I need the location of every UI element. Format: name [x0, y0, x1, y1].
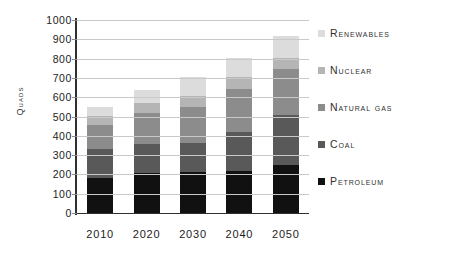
gridline	[77, 97, 309, 98]
x-axis-tick-labels: 20102020203020402050	[77, 228, 309, 248]
legend-swatch-icon	[318, 67, 325, 74]
y-axis-tick-label: 800	[28, 53, 72, 65]
x-axis-tick-label: 2010	[86, 228, 114, 240]
gridline	[77, 78, 309, 79]
y-axis-tick-label: 200	[28, 168, 72, 180]
legend-swatch-icon	[318, 178, 325, 185]
gridline	[77, 194, 309, 195]
gridline	[77, 155, 309, 156]
bar-segment-natural-gas[interactable]	[273, 69, 299, 114]
y-axis-tickmark	[72, 194, 77, 195]
bar-segment-nuclear[interactable]	[134, 103, 160, 113]
y-axis-tick-label: 300	[28, 149, 72, 161]
y-axis-tickmark	[72, 97, 77, 98]
y-axis-tickmark	[72, 136, 77, 137]
y-axis-tickmark	[72, 78, 77, 79]
y-axis-tick-label: 700	[28, 72, 72, 84]
bar-segment-natural-gas[interactable]	[87, 125, 113, 149]
y-axis-tick-label: 900	[28, 33, 72, 45]
legend-label: Coal	[330, 138, 355, 150]
y-axis-tick-label: 0	[28, 207, 72, 219]
y-axis-tick-label: 100	[28, 188, 72, 200]
gridline	[77, 39, 309, 40]
y-axis-tickmark	[72, 174, 77, 175]
bar-segment-coal[interactable]	[180, 143, 206, 173]
bar-segment-natural-gas[interactable]	[226, 89, 252, 132]
y-axis-tickmark	[72, 213, 77, 214]
gridline	[77, 174, 309, 175]
legend-item-petroleum[interactable]: Petroleum	[318, 174, 384, 188]
plot-area	[77, 20, 309, 213]
y-axis-tick-label: 1000	[28, 14, 72, 26]
bar-segment-petroleum[interactable]	[226, 171, 252, 213]
bar-segment-petroleum[interactable]	[273, 165, 299, 213]
y-axis-tick-labels: 10009008007006005004003002001000	[28, 0, 72, 263]
y-axis-tickmark	[72, 39, 77, 40]
stacked-bar-chart: Quads 10009008007006005004003002001000 2…	[0, 0, 452, 263]
legend-item-coal[interactable]: Coal	[318, 137, 355, 151]
x-axis-tick-label: 2040	[226, 228, 254, 240]
y-axis-tickmark	[72, 59, 77, 60]
legend-item-renewables[interactable]: Renewables	[318, 26, 390, 40]
legend-swatch-icon	[318, 104, 325, 111]
y-axis-tick-label: 500	[28, 111, 72, 123]
bar-segment-renewables[interactable]	[87, 107, 113, 116]
bar-segment-natural-gas[interactable]	[180, 107, 206, 143]
x-axis-tick-label: 2030	[179, 228, 207, 240]
y-axis-tickmark	[72, 117, 77, 118]
legend-swatch-icon	[318, 30, 325, 37]
bar-segment-coal[interactable]	[273, 115, 299, 165]
y-axis-tick-label: 600	[28, 91, 72, 103]
bar-segment-coal[interactable]	[226, 132, 252, 171]
bar-segment-petroleum[interactable]	[87, 178, 113, 213]
y-axis-title: Quads	[15, 71, 25, 131]
bar-segment-renewables[interactable]	[180, 77, 206, 96]
legend-label: Petroleum	[330, 175, 384, 187]
bar-segment-coal[interactable]	[134, 144, 160, 174]
bar-segment-renewables[interactable]	[226, 58, 252, 77]
y-axis-tickmark	[72, 20, 77, 21]
y-axis-tick-label: 400	[28, 130, 72, 142]
gridline	[77, 136, 309, 137]
legend-item-natural-gas[interactable]: Natural gas	[318, 100, 392, 114]
gridline	[77, 59, 309, 60]
legend-label: Renewables	[330, 27, 390, 39]
legend-item-nuclear[interactable]: Nuclear	[318, 63, 372, 77]
y-axis-tickmark	[72, 155, 77, 156]
legend-label: Natural gas	[330, 101, 392, 113]
legend-label: Nuclear	[330, 64, 372, 76]
x-axis-tick-label: 2020	[133, 228, 161, 240]
x-axis-tick-label: 2050	[272, 228, 300, 240]
legend-swatch-icon	[318, 141, 325, 148]
gridline	[77, 117, 309, 118]
gridline	[77, 20, 309, 21]
